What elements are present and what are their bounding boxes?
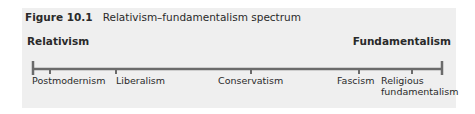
label-fascism: Fascism (337, 75, 374, 86)
label-liberalism: Liberalism (116, 75, 165, 86)
label-line-1: Religious (381, 75, 458, 86)
label-postmodernism: Postmodernism (32, 75, 105, 86)
label-conservatism: Conservatism (218, 75, 283, 86)
label-religious-fundamentalism: Religious fundamentalism (381, 75, 458, 97)
label-line-2: fundamentalism (381, 86, 458, 97)
